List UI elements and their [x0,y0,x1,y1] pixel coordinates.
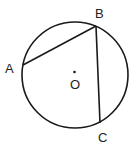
center-dot [73,71,76,74]
chord-ab [23,26,96,65]
label-c: C [98,130,107,145]
geometry-diagram: A B C O [0,0,135,146]
label-b: B [95,6,104,21]
chord-bc [96,26,100,123]
label-o: O [70,77,80,92]
label-a: A [5,61,14,76]
